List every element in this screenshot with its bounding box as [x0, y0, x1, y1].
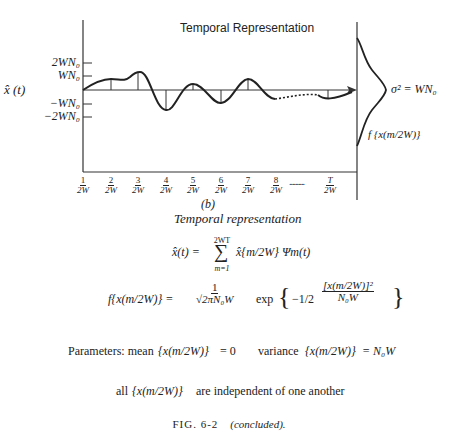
x-tick-3: 32W	[132, 175, 144, 195]
x-tick-den: 2W	[324, 186, 336, 195]
pdf-exponent: [x(m/2W)]²N₀W	[322, 280, 374, 303]
x-tick-4: 42W	[160, 175, 172, 195]
x-tick-den: 2W	[270, 186, 282, 195]
x-tick-2: 22W	[105, 175, 117, 195]
x-tick-5: 52W	[187, 175, 199, 195]
pdf-lhs: f{x(m/2W)} =	[108, 292, 173, 307]
x-tick-7: 72W	[242, 175, 254, 195]
x-tick-T: T2W	[324, 175, 336, 195]
sum-lower: m=1	[208, 264, 236, 273]
figure-subtitle: Temporal representation	[174, 211, 301, 227]
pdf-exponent-coeff: −1/2	[292, 292, 314, 307]
independence-prefix: all	[116, 384, 128, 399]
y-tick-wn0: WN₀	[24, 68, 80, 83]
x-tick-6: 62W	[215, 175, 227, 195]
panel-label: (b)	[201, 197, 215, 212]
x-tick-ellipsis: ..........	[289, 176, 304, 187]
series-lhs: x̂(t) =	[172, 245, 200, 260]
params-variance-label: variance	[258, 344, 299, 359]
pdf-coefficient: 1√2πN₀W	[196, 282, 233, 305]
x-tick-den: 2W	[77, 186, 89, 195]
series-rhs: x̂{m/2W} Ψm(t)	[236, 245, 310, 260]
x-tick-8: 82W	[270, 175, 282, 195]
y-axis-label: x̂ (t)	[4, 82, 25, 98]
brace-close: }	[392, 282, 404, 312]
gaussian-variance-label: σ² = WN₀	[391, 82, 437, 97]
params-label: Parameters: mean	[68, 344, 154, 359]
x-tick-1: 12W	[77, 175, 89, 195]
independence-suffix: are independent of one another	[196, 384, 345, 399]
x-tick-den: 2W	[160, 186, 172, 195]
sum-sign: ∑	[214, 240, 228, 263]
params-variance-arg: {x(m/2W)}	[305, 344, 356, 359]
x-tick-den: 2W	[215, 186, 227, 195]
coeff-den: √2πN₀W	[196, 294, 233, 305]
caption-label: FIG. 6-2	[172, 418, 218, 430]
gaussian-pdf-label: f {x(m/2W)}	[368, 128, 420, 140]
figure-caption: FIG. 6-2 (concluded).	[0, 414, 458, 432]
figure-title: Temporal Representation	[180, 21, 314, 35]
caption-note: (concluded).	[230, 418, 285, 430]
x-tick-den: 2W	[132, 186, 144, 195]
exponent-den: N₀W	[338, 292, 358, 303]
x-tick-den: 2W	[242, 186, 254, 195]
y-tick-neg-2wn0: −2WN₀	[24, 109, 80, 124]
params-mean-arg: {x(m/2W)}	[158, 344, 209, 359]
params-variance-value: = N₀W	[362, 344, 395, 359]
x-tick-den: 2W	[105, 186, 117, 195]
independence-arg: {x(m/2W)}	[132, 384, 183, 399]
params-mean-value: = 0	[220, 344, 236, 359]
x-tick-den: 2W	[187, 186, 199, 195]
pdf-exp: exp	[256, 292, 273, 307]
brace-open: {	[278, 282, 290, 312]
